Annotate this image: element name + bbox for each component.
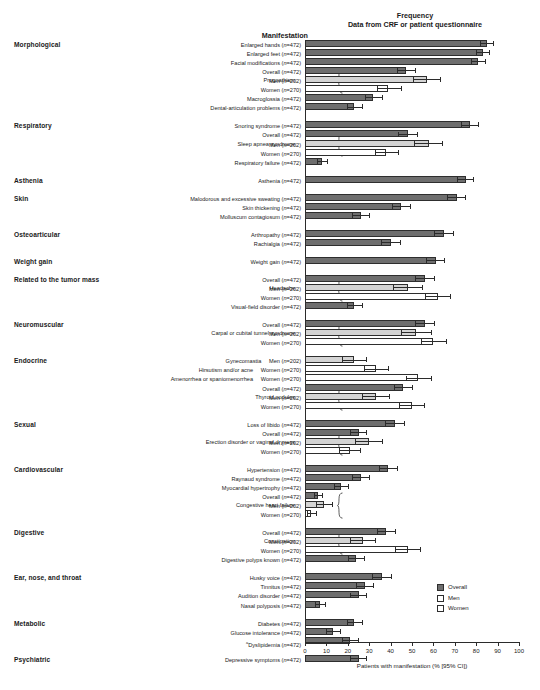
x-tick [305,642,306,646]
row-label: Rachialgia (n=472) [254,240,301,249]
bar-overall [305,275,425,282]
x-tick [498,642,499,646]
error-bar [397,67,415,74]
row-label: Enlarged feet (n=472) [247,50,301,59]
row-label: Overall (n=472) [262,385,301,394]
row-label: Women (n=270) [261,294,301,303]
x-tick-label: 0 [295,648,315,654]
row-label: Tinnitus (n=472) [261,583,301,592]
row-label: Women (n=270) [261,150,301,159]
bar-overall [305,130,408,137]
x-axis-title: Patients with manifestation (% [95% CI]) [305,662,519,669]
frequency-title: Frequency [300,11,530,20]
row-label: Enlarged hands (n=472) [241,41,301,50]
row-label: Respiratory failure (n=472) [235,159,301,168]
error-bar [342,356,367,363]
category-label: Sexual [14,421,36,428]
error-bar [307,510,317,517]
error-bar [356,582,373,589]
error-bar [372,573,391,580]
error-bar [364,365,389,372]
x-tick [391,642,392,646]
category-label: Morphological [14,41,60,48]
row-label: Depressive symptoms (n=472) [225,656,301,665]
error-bar [326,628,340,635]
x-tick-label: 70 [445,648,465,654]
error-bar [394,384,413,391]
bar-overall [305,420,395,427]
legend-item-women: Women [437,605,469,612]
frequency-column-header: Frequency Data from CRF or patient quest… [300,11,530,29]
x-tick [455,642,456,646]
bar-overall [305,40,487,47]
bar-overall [305,194,457,201]
bars-layer [305,40,519,640]
row-label: Husky voice (n=472) [250,574,301,583]
category-label: Cardiovascular [14,466,63,473]
row-label: Women (n=270) [261,448,301,457]
error-bar [471,58,486,65]
row-label: Overall (n=472) [262,430,301,439]
bar-overall [305,121,470,128]
row-label: Overall (n=472) [262,529,301,538]
x-tick [519,642,520,646]
error-bar [365,94,383,101]
bar-women [305,293,438,300]
row-label: Women (n=270) [261,511,301,520]
x-tick [369,642,370,646]
group-label: Thyroid nodules [255,394,295,400]
error-bar [461,121,478,128]
x-tick [348,642,349,646]
error-bar [347,302,363,309]
error-bar [350,537,376,544]
row-label: Raynaud syndrome (n=472) [231,475,301,484]
error-bar [395,546,421,553]
bar-overall [305,203,401,210]
manifestation-column-header: Manifestation [158,31,308,40]
error-bar [415,275,434,282]
error-bar [355,438,383,445]
row-label: Molluscum contagiosum (n=472) [220,213,301,222]
error-bar [421,338,447,345]
legend-swatch-men [437,595,444,602]
bar-men [305,76,427,83]
error-bar [352,212,369,219]
row-label: Women (n=270) [261,339,301,348]
error-bar [392,203,411,210]
row-label: Overall (n=472) [262,493,301,502]
bar-overall [305,49,483,56]
error-bar [350,655,367,662]
row-label: Visual-field disorder (n=472) [231,303,301,312]
bar-overall [305,94,373,101]
x-tick-label: 30 [359,648,379,654]
bar-women [305,402,412,409]
bar-women [305,338,433,345]
x-tick [476,642,477,646]
x-tick-label: 100 [509,648,529,654]
error-bar [399,402,425,409]
row-label: Macroglossia (n=472) [247,95,301,104]
row-label: Glucose intolerance (n=472) [231,629,301,638]
legend-label-women: Women [448,605,469,612]
bar-men [305,140,429,147]
error-bar [447,194,465,201]
bar-overall [305,176,466,183]
category-label: Weight gain [14,258,52,265]
group-label: Prognathism [264,77,295,83]
error-bar [317,158,328,165]
group-label: Headache [269,285,295,291]
error-bar [377,85,402,92]
row-label: Overall (n=472) [262,68,301,77]
x-tick-label: 10 [316,648,336,654]
bar-men [305,329,416,336]
bar-overall [305,573,382,580]
row-label: Nasal polyposis (n=472) [241,602,301,611]
error-bar [426,257,445,264]
error-bar [347,103,363,110]
row-label: Loss of libido (n=472) [247,421,301,430]
bar-overall [305,384,403,391]
bar-overall [305,528,386,535]
error-bar [425,293,451,300]
category-label: Skin [14,195,28,202]
error-bar [348,555,365,562]
